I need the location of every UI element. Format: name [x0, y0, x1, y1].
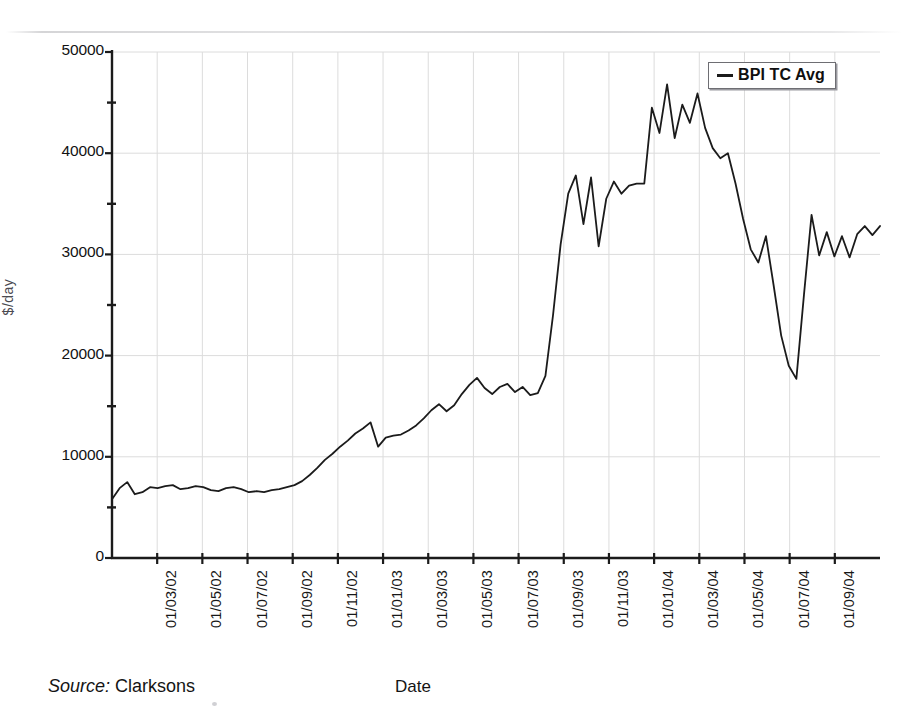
- x-tick-label: 01/03/02: [163, 570, 179, 660]
- x-tick-label: 01/07/02: [254, 570, 270, 660]
- y-axis-title: $/day: [0, 262, 16, 332]
- series-line-0: [112, 84, 880, 499]
- y-tick-label: 30000: [32, 243, 104, 261]
- series-layer: [112, 84, 880, 499]
- x-tick-label: 01/03/03: [434, 570, 450, 660]
- legend-series-label: BPI TC Avg: [738, 66, 825, 84]
- chart-footer: Source: Clarksons Date: [0, 676, 908, 706]
- x-tick-label: 01/11/03: [615, 570, 631, 660]
- x-tick-label: 01/09/03: [570, 570, 586, 660]
- chart-canvas: [0, 0, 908, 720]
- source-note: Source: Clarksons: [48, 676, 195, 697]
- scan-speck: [212, 702, 217, 706]
- x-tick-label: 01/05/02: [208, 570, 224, 660]
- axis-layer: [105, 50, 880, 564]
- x-tick-label: 01/05/04: [750, 570, 766, 660]
- legend-line-marker: [717, 74, 733, 77]
- chart-legend[interactable]: BPI TC Avg: [708, 62, 836, 89]
- source-value: Clarksons: [115, 676, 195, 696]
- x-tick-label: 01/01/03: [389, 570, 405, 660]
- y-tick-label: 40000: [32, 142, 104, 160]
- x-tick-label: 01/07/03: [525, 570, 541, 660]
- x-tick-label: 01/01/04: [660, 570, 676, 660]
- y-tick-label: 0: [32, 547, 104, 565]
- x-tick-label: 01/05/03: [479, 570, 495, 660]
- x-tick-label: 01/07/04: [796, 570, 812, 660]
- y-tick-label: 50000: [32, 41, 104, 59]
- x-tick-label: 01/03/04: [705, 570, 721, 660]
- source-label: Source:: [48, 676, 110, 696]
- grid-layer: [112, 52, 880, 558]
- x-tick-label: 01/09/02: [299, 570, 315, 660]
- x-tick-label: 01/09/04: [841, 570, 857, 660]
- x-tick-label: 01/11/02: [344, 570, 360, 660]
- y-tick-label: 20000: [32, 345, 104, 363]
- y-tick-label: 10000: [32, 446, 104, 464]
- line-chart-figure: $/day 50000400003000020000100000 01/03/0…: [0, 0, 908, 720]
- x-axis-title: Date: [395, 677, 431, 697]
- y-axis-tick-labels: 50000400003000020000100000: [28, 0, 104, 600]
